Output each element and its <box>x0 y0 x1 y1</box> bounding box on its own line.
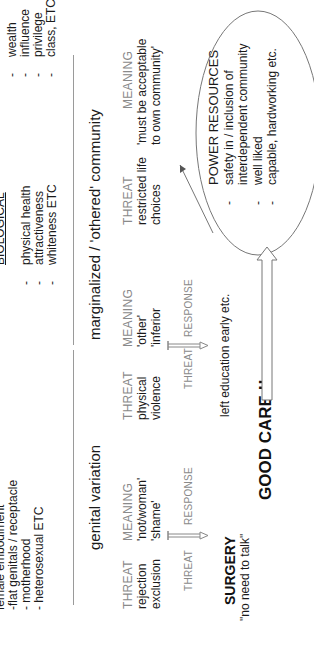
mc-threat-response-arrow <box>168 341 208 350</box>
pointer-arrow <box>180 165 213 233</box>
gv-threat-response-arrow <box>168 531 208 540</box>
diagram-graphics <box>0 0 314 645</box>
good-care-arrow <box>257 247 277 400</box>
power-resources-ellipse <box>196 11 314 255</box>
diagram-canvas: female embodiment -flat genitals / recep… <box>0 0 314 645</box>
